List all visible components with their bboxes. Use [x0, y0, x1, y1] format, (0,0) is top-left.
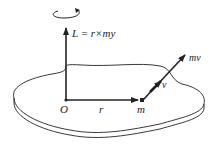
angular-momentum-diagram: L = r×my O r m v mv [0, 0, 219, 150]
rotation-arrow-icon [53, 8, 80, 18]
velocity-label: v [162, 79, 167, 90]
angular-momentum-label: L = r×my [71, 27, 115, 39]
origin-label: O [60, 103, 68, 115]
mass-label: m [137, 103, 145, 115]
momentum-label: mv [189, 52, 201, 63]
plate [13, 64, 204, 137]
origin-point [64, 98, 67, 101]
position-label: r [99, 103, 104, 115]
